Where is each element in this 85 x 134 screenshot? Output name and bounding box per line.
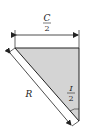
svg-text:C: C [44, 13, 51, 23]
svg-text:2: 2 [44, 24, 49, 33]
chord-label: C 2 [43, 13, 51, 33]
radius-extension-bottom [72, 121, 79, 126]
svg-text:2: 2 [68, 94, 73, 103]
curve-geometry-diagram: C 2 R I 2 [0, 0, 85, 134]
radius-label: R [25, 89, 33, 99]
radius-extension-top [8, 48, 15, 53]
